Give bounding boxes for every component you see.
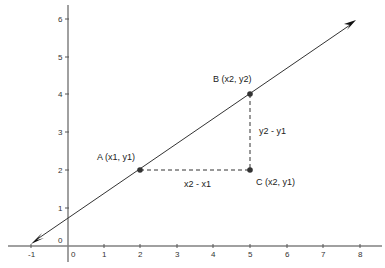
x-tick-label: -1 [28, 250, 36, 259]
run-label: x2 - x1 [184, 179, 211, 189]
x-tick-label: 4 [211, 250, 216, 259]
x-tick-label: 5 [248, 250, 253, 259]
y-tick-labels: 0 1 2 3 4 5 6 [58, 15, 63, 245]
y-tick-label: 1 [58, 204, 63, 213]
point-c-label: C (x2, y1) [256, 177, 295, 187]
x-tick-label: 8 [358, 250, 363, 259]
rise-label: y2 - y1 [259, 126, 286, 136]
y-tick-label: 5 [58, 53, 63, 62]
y-tick-label: 3 [58, 128, 63, 137]
coordinate-plane: -1 0 1 2 3 4 5 6 7 8 0 1 2 3 4 5 6 A (x1… [0, 0, 385, 268]
y-tick-label: 4 [58, 90, 63, 99]
arrow-head-lower-left-icon [31, 233, 44, 244]
y-tick-label: 6 [58, 15, 63, 24]
y-tick-label: 2 [58, 166, 63, 175]
y-tick-label: 0 [58, 236, 63, 245]
x-tick-labels: -1 0 1 2 3 4 5 6 7 8 [28, 250, 363, 259]
point-c [247, 167, 253, 173]
x-tick-label: 7 [321, 250, 326, 259]
line-ab [36, 25, 350, 240]
point-b [247, 91, 253, 97]
point-a [137, 167, 143, 173]
x-tick-label: 0 [71, 250, 76, 259]
x-tick-label: 3 [175, 250, 180, 259]
x-tick-label: 6 [285, 250, 290, 259]
point-a-label: A (x1, y1) [97, 152, 135, 162]
point-b-label: B (x2, y2) [213, 74, 252, 84]
x-tick-label: 2 [138, 250, 143, 259]
x-tick-label: 1 [102, 250, 107, 259]
arrow-head-upper-right-icon [344, 20, 356, 30]
